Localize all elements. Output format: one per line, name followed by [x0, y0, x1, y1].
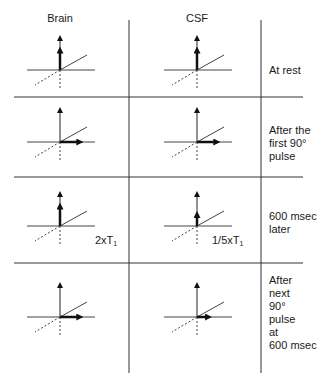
z-axis-dashed — [172, 317, 197, 332]
z-axis-diagonal — [197, 302, 224, 317]
vector-diagram-csf-row-4 — [164, 285, 232, 337]
z-axis-diagonal — [197, 211, 224, 226]
row-label-600-msec-later: 600 msec later — [269, 210, 317, 236]
z-axis-diagonal — [60, 55, 87, 70]
column-header-brain: Brain — [20, 12, 100, 24]
z-axis-dashed — [35, 70, 60, 85]
vector-diagram-brain-row-1 — [27, 38, 95, 90]
vector-diagram-csf-row-1 — [164, 38, 232, 90]
z-axis-diagonal — [197, 127, 224, 142]
z-axis-diagonal — [60, 127, 87, 142]
csf-time-note: 1/5xT1 — [212, 234, 243, 247]
row-label-at-rest: At rest — [269, 64, 301, 77]
z-axis-dashed — [172, 226, 197, 241]
brain-time-note: 2xT1 — [95, 234, 117, 247]
z-axis-diagonal — [60, 211, 87, 226]
z-axis-diagonal — [60, 302, 87, 317]
z-axis-dashed — [172, 70, 197, 85]
row-label-after-next-pulse: After next 90° pulse at 600 msec — [269, 274, 317, 352]
vector-diagram-brain-row-4 — [27, 285, 95, 337]
column-header-csf: CSF — [157, 12, 237, 24]
z-axis-diagonal — [197, 55, 224, 70]
z-axis-dashed — [35, 142, 60, 157]
vector-diagram-brain-row-3 — [27, 194, 95, 246]
row-label-after-first-pulse: After the first 90° pulse — [269, 124, 311, 163]
csf-note-subscript: 1 — [240, 240, 244, 247]
vector-diagram-csf-row-2 — [164, 110, 232, 162]
brain-note-subscript: 1 — [113, 240, 117, 247]
brain-note-text: 2xT — [95, 234, 113, 246]
z-axis-dashed — [172, 142, 197, 157]
z-axis-dashed — [35, 317, 60, 332]
z-axis-dashed — [35, 226, 60, 241]
table-grid — [14, 20, 303, 373]
csf-note-text: 1/5xT — [212, 234, 240, 246]
vector-diagram-brain-row-2 — [27, 110, 95, 162]
